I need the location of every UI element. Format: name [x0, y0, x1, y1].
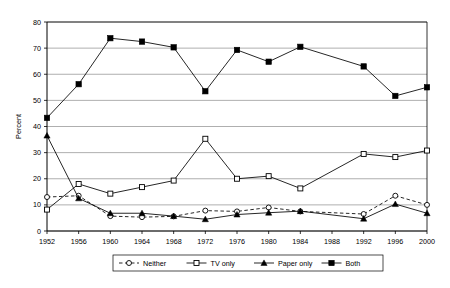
x-tick-label: 1996	[387, 237, 403, 246]
legend-label: Paper only	[278, 259, 313, 268]
data-point	[425, 202, 430, 207]
y-axis-title: Percent	[14, 114, 23, 139]
data-point	[108, 191, 113, 196]
y-tick-label: 40	[33, 122, 41, 131]
y-tick-label: 70	[33, 44, 41, 53]
legend-marker	[194, 261, 199, 266]
y-tick-label: 10	[33, 200, 41, 209]
series-line	[47, 139, 427, 210]
data-point	[424, 85, 429, 90]
x-tick-label: 1992	[356, 237, 372, 246]
legend-label: TV only	[211, 259, 236, 268]
x-tick-label: 1980	[261, 237, 277, 246]
x-axis: 1952195619601964196819721976198019841988…	[39, 231, 435, 246]
data-point	[44, 133, 50, 139]
data-point	[76, 81, 81, 86]
line-chart: 0102030405060708019521956196019641968197…	[0, 0, 450, 288]
data-point	[108, 35, 113, 40]
data-point	[140, 185, 145, 190]
data-point	[266, 59, 271, 64]
x-tick-label: 1956	[71, 237, 87, 246]
y-tick-label: 0	[37, 227, 41, 236]
y-tick-label: 80	[33, 18, 41, 27]
data-point	[298, 44, 303, 49]
chart-figure: 0102030405060708019521956196019641968197…	[0, 0, 450, 288]
data-point	[392, 201, 398, 207]
x-tick-label: 1964	[134, 237, 150, 246]
data-point	[76, 181, 81, 186]
data-point	[171, 178, 176, 183]
y-tick-label: 50	[33, 96, 41, 105]
x-tick-label: 1972	[197, 237, 213, 246]
data-point	[425, 148, 430, 153]
data-point	[361, 151, 366, 156]
data-point	[203, 208, 208, 213]
x-tick-label: 1952	[39, 237, 55, 246]
legend: NeitherTV onlyPaper onlyBoth	[113, 255, 383, 271]
data-point	[266, 174, 271, 179]
data-point	[361, 64, 366, 69]
data-point	[203, 89, 208, 94]
y-tick-label: 20	[33, 174, 41, 183]
x-tick-label: 1984	[292, 237, 308, 246]
data-point	[298, 186, 303, 191]
data-point	[234, 47, 239, 52]
series-tv-only	[45, 136, 430, 212]
legend-label: Both	[346, 259, 361, 268]
x-tick-label: 2000	[419, 237, 435, 246]
data-point	[45, 207, 50, 212]
y-tick-label: 60	[33, 70, 41, 79]
data-point	[45, 195, 50, 200]
x-tick-label: 1976	[229, 237, 245, 246]
data-point	[44, 115, 49, 120]
legend-marker	[127, 261, 132, 266]
legend-marker	[329, 260, 334, 265]
data-point	[393, 155, 398, 160]
y-tick-label: 30	[33, 148, 41, 157]
x-tick-label: 1968	[166, 237, 182, 246]
data-point	[235, 176, 240, 181]
data-point	[139, 39, 144, 44]
y-axis: 01020304050607080	[33, 18, 47, 236]
data-point	[393, 193, 398, 198]
x-tick-label: 1960	[102, 237, 118, 246]
data-point	[203, 136, 208, 141]
legend-label: Neither	[143, 259, 167, 268]
data-point	[171, 45, 176, 50]
gridlines	[47, 22, 427, 231]
data-point	[393, 93, 398, 98]
x-tick-label: 1988	[324, 237, 340, 246]
